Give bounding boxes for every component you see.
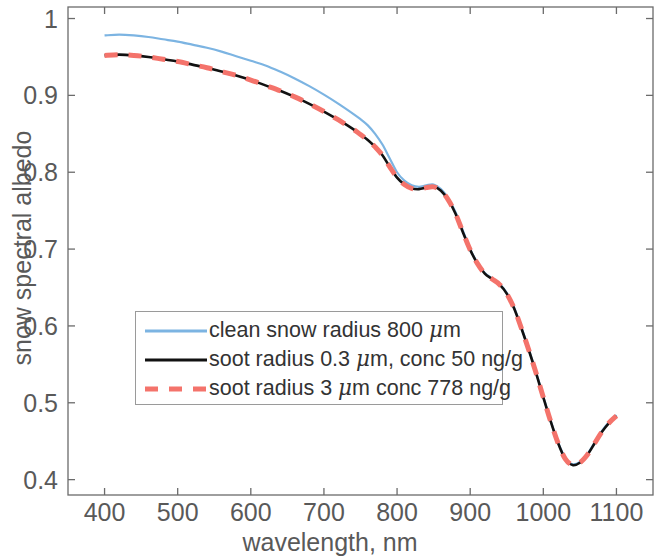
- legend-line-swatch: [145, 322, 207, 340]
- legend-entry[interactable]: soot radius 3 μm conc 778 ng/g: [136, 374, 502, 403]
- legend-entry[interactable]: clean snow radius 800 μm: [136, 316, 502, 345]
- axis-tick-marks: [68, 7, 653, 495]
- mu-symbol: μ: [356, 346, 370, 371]
- y-tick-label: 0.5: [0, 390, 58, 415]
- legend-entry[interactable]: soot radius 0.3 μm, conc 50 ng/g: [136, 345, 502, 374]
- chart-figure: 40050060070080090010001100 10.90.80.70.6…: [0, 0, 661, 559]
- legend-entry-label: soot radius 3 μm conc 778 ng/g: [209, 377, 511, 400]
- legend-entry-label: soot radius 0.3 μm, conc 50 ng/g: [209, 348, 523, 371]
- spectral-albedo-plot: [0, 0, 661, 559]
- mu-symbol: μ: [429, 317, 443, 342]
- legend-entry-label: clean snow radius 800 μm: [209, 319, 461, 342]
- axis-frame: [68, 7, 653, 495]
- x-tick-label: 500: [157, 500, 199, 525]
- y-tick-label: 0.4: [0, 467, 58, 492]
- x-tick-label: 900: [449, 500, 491, 525]
- x-tick-label: 800: [376, 500, 418, 525]
- y-axis-title: snow spectral albedo: [10, 118, 35, 378]
- x-tick-label: 1000: [516, 500, 572, 525]
- legend-line-swatch: [145, 351, 207, 369]
- y-tick-label: 1: [0, 6, 58, 31]
- x-axis-title: wavelength, nm: [242, 530, 417, 555]
- legend-line-swatch: [145, 380, 207, 398]
- chart-legend: clean snow radius 800 μmsoot radius 0.3 …: [135, 311, 503, 405]
- mu-symbol: μ: [338, 375, 352, 400]
- x-tick-label: 700: [303, 500, 345, 525]
- x-tick-label: 600: [230, 500, 272, 525]
- x-tick-label: 1100: [590, 500, 644, 525]
- x-tick-label: 400: [84, 500, 126, 525]
- y-tick-label: 0.9: [0, 83, 58, 108]
